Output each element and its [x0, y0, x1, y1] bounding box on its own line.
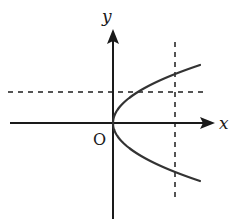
- y-axis-label: y: [101, 6, 112, 26]
- origin-label: O: [93, 130, 106, 149]
- x-axis-label: x: [219, 113, 229, 133]
- coordinate-diagram: y x O: [0, 0, 230, 219]
